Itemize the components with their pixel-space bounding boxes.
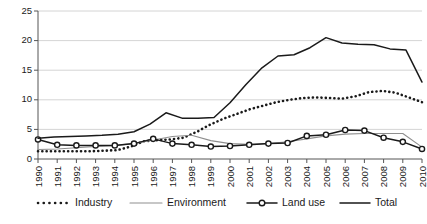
series-marker-land-use [285,140,290,145]
series-marker-land-use [170,141,175,146]
series-marker-land-use [208,144,213,149]
y-tick-label: 5 [27,123,32,134]
series-marker-land-use [400,139,405,144]
x-tick-label: 1994 [109,166,120,187]
x-tick-label: 1996 [148,166,159,187]
x-tick-label: 2002 [263,166,274,187]
y-tick-label: 25 [21,5,32,16]
x-tick-label: 2008 [378,166,389,187]
series-marker-land-use [381,135,386,140]
series-marker-land-use [112,143,117,148]
legend-label-industry: Industry [75,196,113,208]
x-tick-label: 1993 [90,166,101,187]
series-marker-land-use [304,133,309,138]
x-tick-label: 2007 [359,166,370,187]
chart-container: 0510152025199019911992199319941995199619… [0,0,427,224]
x-tick-label: 1997 [167,166,178,187]
legend-item-environment: Environment [130,196,226,208]
legend-label-environment: Environment [167,196,226,208]
series-marker-land-use [343,127,348,132]
series-marker-land-use [189,142,194,147]
x-tick-label: 2010 [417,166,427,187]
series-marker-land-use [247,142,252,147]
x-tick-label: 1999 [205,166,216,187]
legend-item-total: Total [340,196,397,208]
series-marker-land-use [151,136,156,141]
x-tick-label: 2003 [282,166,293,187]
x-tick-label: 2009 [397,166,408,187]
y-tick-label: 0 [27,153,32,164]
series-marker-land-use [55,142,60,147]
series-marker-land-use [419,146,424,151]
series-marker-land-use [227,143,232,148]
x-tick-label: 2006 [340,166,351,187]
y-tick-label: 15 [21,64,32,75]
series-marker-land-use [131,141,136,146]
series-marker-land-use [266,141,271,146]
series-marker-land-use [362,128,367,133]
legend-label-total: Total [375,196,397,208]
series-marker-land-use [74,143,79,148]
x-tick-label: 1990 [33,166,44,187]
legend-item-land-use: Land use [247,196,325,208]
line-chart: 0510152025199019911992199319941995199619… [0,0,427,224]
y-tick-label: 20 [21,34,32,45]
series-marker-land-use [93,143,98,148]
series-line-total [38,38,422,139]
y-tick-label: 10 [21,93,32,104]
x-tick-label: 1992 [71,166,82,187]
x-tick-label: 1991 [52,166,63,187]
x-tick-label: 1998 [186,166,197,187]
x-tick-label: 2005 [321,166,332,187]
legend-marker-land-use [259,200,265,206]
series-marker-land-use [323,132,328,137]
x-tick-label: 2000 [225,166,236,187]
legend-label-land-use: Land use [282,196,325,208]
legend-item-industry: Industry [38,196,113,208]
x-tick-label: 2004 [301,166,312,187]
x-tick-label: 1995 [129,166,140,187]
x-tick-label: 2001 [244,166,255,187]
